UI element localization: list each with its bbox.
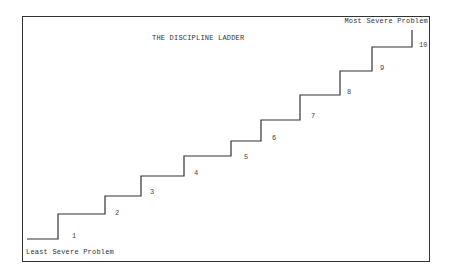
step-number-4: 4 <box>194 169 198 177</box>
step-number-2: 2 <box>115 209 119 217</box>
least-severe-label: Least Severe Problem <box>26 248 114 256</box>
diagram-title: THE DISCIPLINE LADDER <box>152 34 244 42</box>
ladder-line <box>27 30 412 239</box>
step-number-3: 3 <box>150 188 154 196</box>
step-number-6: 6 <box>272 134 276 142</box>
step-number-7: 7 <box>311 112 315 120</box>
step-number-5: 5 <box>244 153 248 161</box>
step-number-1: 1 <box>72 232 76 240</box>
most-severe-label: Most Severe Problem <box>344 17 428 25</box>
step-number-8: 8 <box>347 88 351 96</box>
step-number-9: 9 <box>380 64 384 72</box>
step-number-10: 10 <box>419 41 427 49</box>
